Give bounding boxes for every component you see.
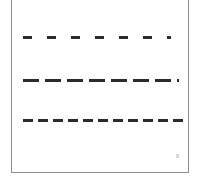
dash-line-3	[23, 119, 183, 122]
dash-pattern-figure: Dash pattern sample lines	[0, 0, 201, 179]
dash-line-2	[23, 79, 179, 82]
scan-speck-artifact	[176, 154, 179, 158]
figure-frame-border	[11, 0, 189, 173]
dash-line-1	[23, 36, 171, 39]
